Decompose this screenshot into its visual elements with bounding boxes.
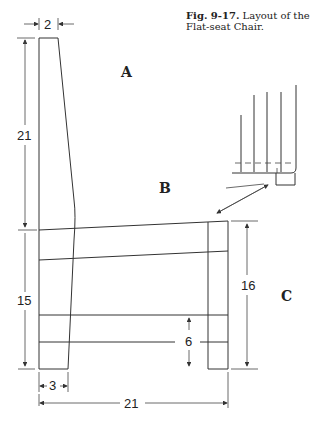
- dim-leg-bottom-width: 3: [39, 372, 68, 393]
- dim-leg-height-right: 16: [231, 221, 258, 369]
- dim-seat-depth: 21: [39, 372, 228, 411]
- dim-back-height: 21: [17, 38, 35, 227]
- part-label-c: C: [281, 288, 292, 304]
- dim-6: 6: [185, 334, 192, 349]
- dim-stretcher-height: 6: [185, 318, 192, 366]
- dim-16: 16: [241, 278, 255, 293]
- dim-21-depth: 21: [124, 396, 138, 411]
- back-leg: [39, 38, 75, 369]
- front-leg: [208, 221, 228, 369]
- dim-back-top-width: 2: [24, 17, 74, 32]
- stretchers: [39, 315, 228, 342]
- dim-21-back: 21: [17, 128, 31, 143]
- joint-detail-inset: [232, 85, 296, 185]
- dim-2-top: 2: [44, 17, 51, 32]
- detail-pointer-arrow: [217, 184, 268, 213]
- part-label-a: A: [120, 64, 133, 80]
- dim-seat-height-left: 15: [17, 230, 37, 369]
- dim-3: 3: [49, 378, 56, 393]
- chair-layout-diagram: 2 21 15 16 6 3: [0, 0, 320, 422]
- dim-15: 15: [17, 293, 31, 308]
- part-label-b: B: [159, 180, 171, 196]
- seat-rails: [39, 221, 228, 260]
